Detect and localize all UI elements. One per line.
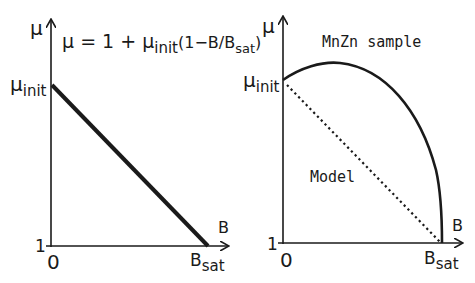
model-label: Model — [310, 170, 355, 185]
left-mu-init-sub: init — [23, 82, 47, 100]
formula-middle-sub: sat — [235, 41, 255, 56]
model-label-text: Model — [310, 168, 355, 186]
right-y-tick-one-text: 1 — [267, 234, 278, 254]
left-bsat-sub: sat — [202, 257, 225, 275]
formula-prefix: μ = 1 + μ — [62, 30, 154, 52]
right-x-tick-origin: 0 — [280, 250, 293, 270]
right-plot — [278, 17, 462, 244]
left-mu-init-symbol: μ — [10, 72, 23, 96]
formula-suffix: ) — [255, 33, 261, 52]
left-y-tick-mu-init: μinit — [10, 74, 46, 94]
right-mu-init-sub: init — [256, 78, 280, 96]
formula-middle: (1−B/B — [178, 33, 235, 52]
model-dotted-line — [287, 85, 441, 243]
left-linear-model-line — [52, 85, 208, 246]
left-y-tick-one: 1 — [35, 238, 46, 255]
mnzn-sample-label: MnZn sample — [322, 35, 421, 50]
right-y-tick-mu-init: μinit — [243, 70, 279, 90]
right-x-axis-label-text: B — [452, 216, 463, 235]
left-y-axis-label: μ — [30, 18, 43, 38]
left-x-tick-origin: 0 — [47, 252, 60, 272]
left-origin-text: 0 — [47, 250, 60, 274]
right-y-tick-one: 1 — [267, 236, 278, 253]
left-bsat-symbol: B — [190, 250, 202, 270]
mnzn-sample-curve — [283, 63, 442, 243]
right-origin-text: 0 — [280, 248, 293, 272]
right-bsat-symbol: B — [424, 248, 436, 268]
right-y-axis-label: μ — [262, 16, 275, 36]
left-x-tick-bsat: Bsat — [190, 252, 225, 269]
right-mu-init-symbol: μ — [243, 68, 256, 92]
left-x-axis-label-text: B — [218, 218, 229, 237]
left-plot — [46, 20, 228, 247]
right-x-axis-label: B — [452, 218, 463, 234]
right-bsat-sub: sat — [436, 255, 459, 273]
left-y-tick-one-text: 1 — [35, 236, 46, 256]
left-x-axis-label: B — [218, 220, 229, 236]
right-y-axis-label-text: μ — [262, 14, 275, 38]
left-formula: μ = 1 + μinit(1−B/Bsat) — [62, 32, 261, 51]
left-y-axis-label-text: μ — [30, 16, 43, 40]
formula-prefix-sub: init — [154, 39, 178, 57]
right-x-tick-bsat: Bsat — [424, 250, 459, 267]
mnzn-sample-label-text: MnZn sample — [322, 33, 421, 51]
